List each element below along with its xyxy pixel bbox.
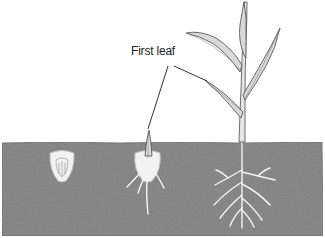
leader-line-seedling <box>148 66 168 129</box>
illustration-canvas <box>0 0 325 238</box>
first-leaf <box>205 80 243 118</box>
first-leaf-label: First leaf <box>131 44 175 58</box>
leader-line-plant <box>174 66 207 81</box>
